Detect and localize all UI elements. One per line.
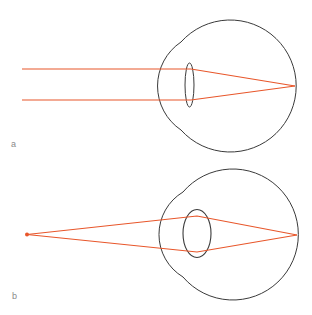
eyeball-outline-a: [158, 20, 297, 152]
panel-label-a: a: [11, 140, 16, 149]
eyeball-outline-b: [159, 169, 298, 300]
panel-b: [25, 169, 298, 300]
accommodation-diagram: [0, 0, 312, 315]
panel-a: [22, 20, 296, 152]
light-ray-top-b: [27, 216, 297, 235]
panel-label-b: b: [12, 292, 17, 301]
light-ray-bottom-b: [27, 235, 297, 253]
point-source-b: [25, 233, 29, 237]
